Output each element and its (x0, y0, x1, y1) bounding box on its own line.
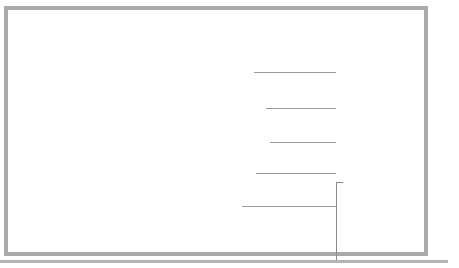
callout-labels-group (314, 10, 459, 268)
page-bottom-rule (0, 260, 448, 263)
chart-frame (4, 6, 428, 256)
leader-line-peru (256, 173, 336, 174)
leader-line-colombia (266, 108, 336, 109)
leader-line-small-countries (242, 206, 336, 207)
small-countries-bracket (336, 182, 343, 261)
leader-line-venezuela (254, 72, 336, 73)
leader-line-chile (270, 142, 336, 143)
